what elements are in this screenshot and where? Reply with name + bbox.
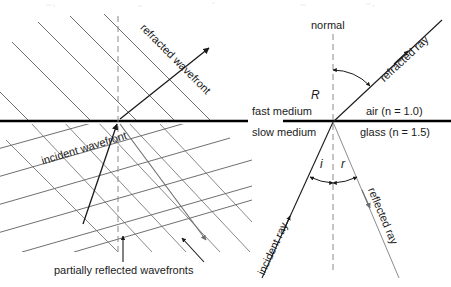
partially-reflected-wavefronts-caption: partially reflected wavefronts (54, 265, 193, 276)
incident-wavefront-lines (0, 104, 252, 252)
angle-arc-incidence (310, 177, 333, 183)
angle-reflection-label: r (341, 158, 345, 170)
upper-medium-label: air (n = 1.0) (366, 106, 423, 117)
angle-incidence-label: i (320, 158, 323, 170)
fast-medium-label: fast medium (252, 106, 312, 117)
angle-arc-refraction (333, 70, 370, 86)
angle-arc-reflection (333, 177, 357, 183)
angle-refraction-label: R (311, 89, 320, 101)
partially-reflected-ray-arrow-left (120, 124, 206, 240)
partially-reflected-wavefront-lines (6, 120, 252, 252)
normal-label: normal (311, 20, 345, 31)
slow-medium-label: slow medium (252, 127, 316, 138)
refracted-wavefront-lines (0, 14, 224, 198)
figure-canvas: fast medium slow medium air (n = 1.0) gl… (0, 0, 451, 287)
diagram-vector-layer (0, 0, 451, 287)
caption-leader-arrow-2 (182, 238, 204, 262)
lower-medium-label: glass (n = 1.5) (360, 127, 430, 138)
cropped-text-remnant (46, 3, 375, 7)
